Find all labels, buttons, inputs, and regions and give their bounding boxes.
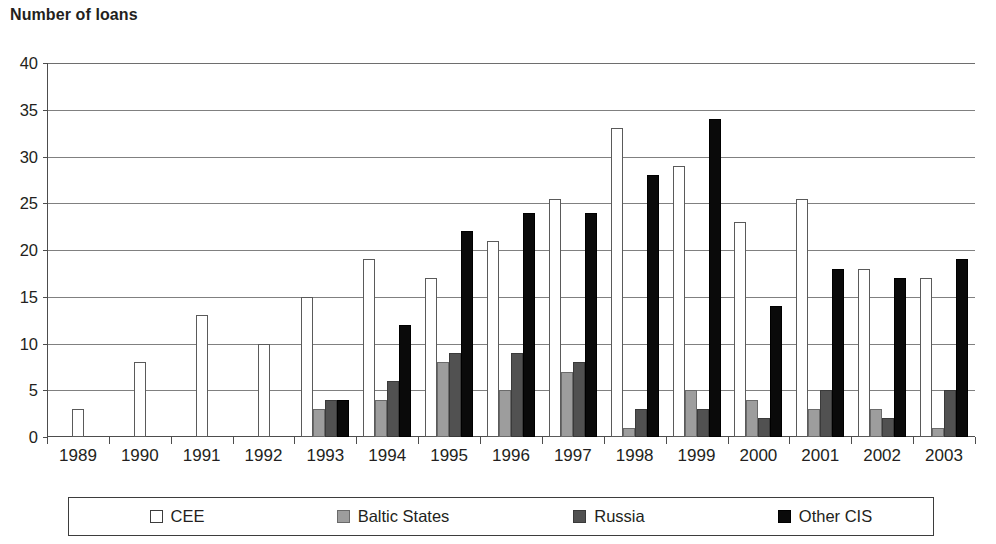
bar-1999-russia[interactable] (697, 409, 709, 437)
legend-label: Baltic States (358, 507, 450, 526)
x-axis-label-2000: 2000 (727, 446, 789, 472)
x-axis-label-2001: 2001 (789, 446, 851, 472)
bar-1997-russia[interactable] (573, 362, 585, 437)
x-axis-label-2003: 2003 (913, 446, 975, 472)
legend-label: Russia (594, 507, 644, 526)
bar-2002-russia[interactable] (882, 418, 894, 437)
bar-group-2000 (727, 63, 789, 437)
bar-1999-baltic-states[interactable] (685, 390, 697, 437)
bar-group-1994 (356, 63, 418, 437)
bar-group-1999 (666, 63, 728, 437)
legend-label: CEE (171, 507, 205, 526)
bar-group-1989 (47, 63, 109, 437)
legend-swatch-icon-baltic-states (337, 510, 350, 523)
x-tick-11 (728, 437, 729, 444)
bar-1996-cee[interactable] (487, 241, 499, 437)
x-axis-label-1996: 1996 (480, 446, 542, 472)
x-axis-label-1989: 1989 (47, 446, 109, 472)
bar-1998-baltic-states[interactable] (623, 428, 635, 437)
bar-2001-cee[interactable] (796, 199, 808, 437)
legend-swatch-icon-cee (150, 510, 163, 523)
bar-1993-cee[interactable] (301, 297, 313, 437)
bar-2001-baltic-states[interactable] (808, 409, 820, 437)
chart-legend: CEEBaltic StatesRussiaOther CIS (68, 497, 934, 536)
y-tick-label-15: 15 (0, 287, 38, 306)
x-axis-labels: 1989199019911992199319941995199619971998… (47, 446, 975, 472)
bar-1998-russia[interactable] (635, 409, 647, 437)
bar-1997-baltic-states[interactable] (561, 372, 573, 437)
bar-2000-russia[interactable] (758, 418, 770, 437)
legend-swatch-icon-russia (573, 510, 586, 523)
y-tick-label-20: 20 (0, 241, 38, 260)
x-tick-8 (542, 437, 543, 444)
bar-2003-cee[interactable] (920, 278, 932, 437)
bar-1999-other-cis[interactable] (709, 119, 721, 437)
bar-2000-baltic-states[interactable] (746, 400, 758, 437)
x-axis-label-1991: 1991 (171, 446, 233, 472)
y-tick-label-40: 40 (0, 54, 38, 73)
bar-1999-cee[interactable] (673, 166, 685, 437)
bar-1994-other-cis[interactable] (399, 325, 411, 437)
bar-1993-baltic-states[interactable] (313, 409, 325, 437)
bar-1990-cee[interactable] (134, 362, 146, 437)
bar-group-1993 (294, 63, 356, 437)
bar-2002-other-cis[interactable] (894, 278, 906, 437)
bar-group-1998 (604, 63, 666, 437)
bar-group-2002 (851, 63, 913, 437)
bar-2000-other-cis[interactable] (770, 306, 782, 437)
bar-2002-baltic-states[interactable] (870, 409, 882, 437)
x-tick-9 (604, 437, 605, 444)
y-tick-label-10: 10 (0, 334, 38, 353)
bar-1994-baltic-states[interactable] (375, 400, 387, 437)
bar-1995-baltic-states[interactable] (437, 362, 449, 437)
bar-group-2001 (789, 63, 851, 437)
bar-1998-cee[interactable] (611, 128, 623, 437)
bar-1995-russia[interactable] (449, 353, 461, 437)
bar-2003-other-cis[interactable] (956, 259, 968, 437)
bar-2000-cee[interactable] (734, 222, 746, 437)
bar-1997-cee[interactable] (549, 199, 561, 437)
x-tick-2 (171, 437, 172, 444)
y-tick-label-30: 30 (0, 147, 38, 166)
bar-2001-other-cis[interactable] (832, 269, 844, 437)
legend-item-other-cis[interactable]: Other CIS (717, 507, 933, 526)
bar-1993-russia[interactable] (325, 400, 337, 437)
y-tick-label-25: 25 (0, 194, 38, 213)
bar-1989-cee[interactable] (72, 409, 84, 437)
bar-2003-russia[interactable] (944, 390, 956, 437)
bar-1996-russia[interactable] (511, 353, 523, 437)
bar-1996-other-cis[interactable] (523, 213, 535, 437)
bar-group-1996 (480, 63, 542, 437)
bar-2003-baltic-states[interactable] (932, 428, 944, 437)
legend-item-cee[interactable]: CEE (69, 507, 285, 526)
y-tick-label-35: 35 (0, 100, 38, 119)
x-axis-label-1999: 1999 (666, 446, 728, 472)
x-axis-label-1997: 1997 (542, 446, 604, 472)
bar-1998-other-cis[interactable] (647, 175, 659, 437)
x-tick-13 (851, 437, 852, 444)
bar-1994-russia[interactable] (387, 381, 399, 437)
legend-item-baltic-states[interactable]: Baltic States (285, 507, 501, 526)
bar-1991-cee[interactable] (196, 315, 208, 437)
bar-1993-other-cis[interactable] (337, 400, 349, 437)
x-axis-label-1990: 1990 (109, 446, 171, 472)
bar-group-1992 (233, 63, 295, 437)
bar-2002-cee[interactable] (858, 269, 870, 437)
x-tick-0 (47, 437, 48, 444)
bar-1992-cee[interactable] (258, 344, 270, 438)
x-axis-ticks (47, 437, 975, 444)
bar-group-1991 (171, 63, 233, 437)
y-tick-label-5: 5 (0, 381, 38, 400)
bar-1994-cee[interactable] (363, 259, 375, 437)
x-tick-15 (975, 437, 976, 444)
bar-1995-other-cis[interactable] (461, 231, 473, 437)
bar-1995-cee[interactable] (425, 278, 437, 437)
bar-2001-russia[interactable] (820, 390, 832, 437)
bar-1997-other-cis[interactable] (585, 213, 597, 437)
legend-item-russia[interactable]: Russia (501, 507, 717, 526)
bar-1996-baltic-states[interactable] (499, 390, 511, 437)
x-tick-3 (233, 437, 234, 444)
bar-group-1990 (109, 63, 171, 437)
x-tick-1 (109, 437, 110, 444)
x-axis-label-1995: 1995 (418, 446, 480, 472)
